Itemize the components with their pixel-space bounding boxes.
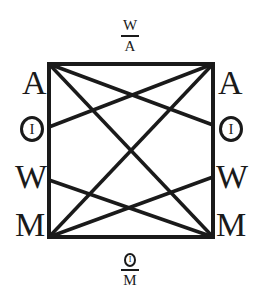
right-label-o-circled-i-icon: I — [219, 116, 243, 142]
right-label-w: W — [216, 160, 248, 194]
bottom-fraction-denominator: M — [115, 273, 145, 288]
left-label-w: W — [15, 160, 47, 194]
fraction-bar — [121, 269, 139, 271]
bottom-fraction: I M — [115, 250, 145, 288]
top-fraction-denominator: A — [115, 39, 145, 54]
top-fraction-numerator: W — [115, 18, 145, 33]
square-of-opposition-diagram: W A I M A I W M A I W M — [0, 0, 264, 302]
left-label-a: A — [22, 66, 47, 100]
right-label-a: A — [218, 66, 243, 100]
top-fraction: W A — [115, 18, 145, 54]
circled-i-icon: I — [124, 253, 136, 267]
right-label-m: M — [216, 208, 246, 242]
left-label-o-circled-i-icon: I — [20, 116, 44, 142]
fraction-bar — [121, 35, 139, 37]
left-label-m: M — [15, 208, 45, 242]
bottom-fraction-numerator: I — [115, 250, 145, 267]
